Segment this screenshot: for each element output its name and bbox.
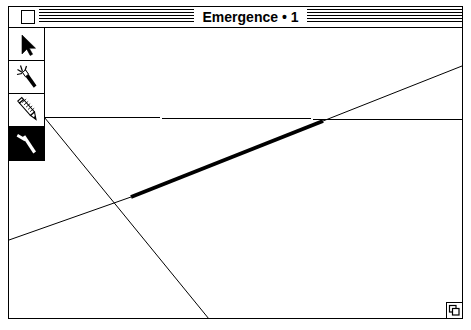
- ascending-line-left-segment: [9, 197, 131, 240]
- close-box-region[interactable]: [9, 7, 39, 27]
- close-box-icon[interactable]: [21, 10, 35, 24]
- line-tool-icon: [9, 127, 44, 160]
- magic-wand-icon: [9, 61, 44, 94]
- title-bar-stripes-right: [307, 9, 462, 24]
- horizontal-line: [9, 117, 462, 120]
- pencil-tool[interactable]: [9, 94, 44, 127]
- line-tool[interactable]: [9, 127, 44, 160]
- document-window: Emergence • 1: [8, 6, 463, 319]
- arrow-tool[interactable]: [9, 28, 44, 61]
- magic-wand-tool[interactable]: [9, 61, 44, 94]
- drawing-canvas[interactable]: [9, 28, 462, 318]
- ascending-line-selected-segment: [131, 121, 323, 197]
- title-bar-stripes-left: [39, 9, 194, 24]
- window-content: [9, 28, 462, 318]
- screen: Emergence • 1: [0, 0, 471, 330]
- pencil-icon: [9, 94, 44, 127]
- grow-box[interactable]: [446, 302, 462, 318]
- window-title: Emergence • 1: [194, 7, 308, 27]
- close-box-inner: [23, 12, 33, 22]
- tool-palette: [9, 28, 45, 161]
- resize-handle-icon: [447, 303, 462, 318]
- window-title-bar[interactable]: Emergence • 1: [9, 7, 462, 28]
- canvas-artwork: [9, 28, 462, 318]
- arrow-pointer-icon: [9, 28, 44, 61]
- ascending-line-right-segment: [323, 66, 462, 121]
